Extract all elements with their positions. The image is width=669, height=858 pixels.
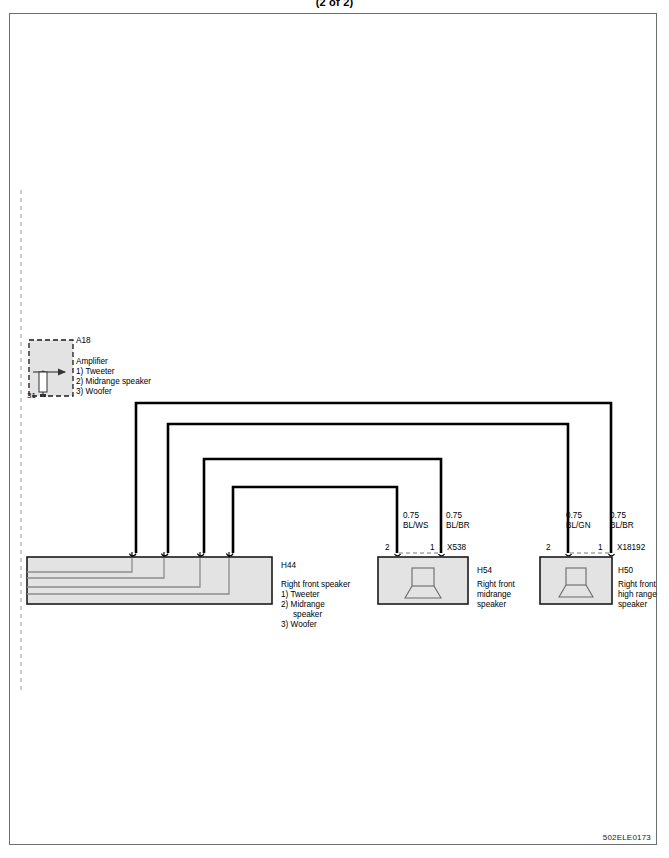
wire-path-bl-br-highrange <box>136 403 611 553</box>
wire-path-bl-ws-midrange <box>233 487 397 553</box>
h50-name-line-2: high range <box>618 590 657 600</box>
x538-pin-2-number: 2 <box>385 543 390 552</box>
x18192-connector-label: X18192 <box>617 543 645 552</box>
x538-pin-2-socket <box>395 554 401 556</box>
h50-name-line-1: Right front <box>618 580 656 590</box>
wire-gauge-bl-br-mid: 0.75 <box>446 511 462 521</box>
amplifier-module-box <box>29 340 73 396</box>
h44-pin-1-label: 1) Tweeter <box>281 590 320 600</box>
wire-path-bl-br-midrange <box>204 459 441 553</box>
drawing-number: 502ELE0173 <box>603 833 651 842</box>
h44-pin-2-label: 2) Midrange <box>281 600 325 610</box>
h44-speaker-block <box>27 557 272 604</box>
x18192-pin-1-socket <box>609 554 615 556</box>
wire-color-bl-br-high: BL/BR <box>610 521 634 531</box>
wire-gauge-bl-gn: 0.75 <box>566 511 582 521</box>
wire-gauge-bl-ws: 0.75 <box>403 511 419 521</box>
h54-name-line-2: midrange <box>477 590 511 600</box>
x538-pin-1-socket <box>439 554 445 556</box>
wire-path-bl-gn-highrange <box>168 424 568 553</box>
diagram-canvas <box>0 0 669 858</box>
h44-pin-2-label-cont: speaker <box>293 610 322 620</box>
h44-name-label: Right front speaker <box>281 580 350 590</box>
x18192-pin-1-number: 1 <box>598 543 603 552</box>
x18192-pin-2-socket <box>566 554 572 556</box>
h50-id-label: H50 <box>618 566 633 576</box>
wire-color-bl-gn: BL/GN <box>566 521 591 531</box>
wiring-diagram-page: (2 of 2) <box>0 0 669 858</box>
h54-speaker-block <box>378 557 468 604</box>
wire-gauge-bl-br-high: 0.75 <box>610 511 626 521</box>
h44-pin-3-label: 3) Woofer <box>281 620 317 630</box>
amplifier-pin-2-label: 2) Midrange speaker <box>76 377 151 387</box>
h54-name-line-1: Right front <box>477 580 515 590</box>
h50-name-line-3: speaker <box>618 600 647 610</box>
amplifier-ground-label: 31 <box>27 391 36 400</box>
resistor-symbol-icon <box>39 372 47 392</box>
h54-id-label: H54 <box>477 566 492 576</box>
wire-color-bl-ws: BL/WS <box>403 521 428 531</box>
amplifier-pin-1-label: 1) Tweeter <box>76 367 115 377</box>
amplifier-name-label: Amplifier <box>76 357 108 367</box>
x538-pin-1-number: 1 <box>430 543 435 552</box>
h54-name-line-3: speaker <box>477 600 506 610</box>
x18192-pin-2-number: 2 <box>546 543 551 552</box>
x538-connector-label: X538 <box>447 543 466 552</box>
wire-color-bl-br-mid: BL/BR <box>446 521 470 531</box>
ground-terminal-icon <box>40 394 46 397</box>
h44-id-label: H44 <box>281 561 296 571</box>
amplifier-id-label: A18 <box>76 336 91 346</box>
amplifier-pin-3-label: 3) Woofer <box>76 387 112 397</box>
